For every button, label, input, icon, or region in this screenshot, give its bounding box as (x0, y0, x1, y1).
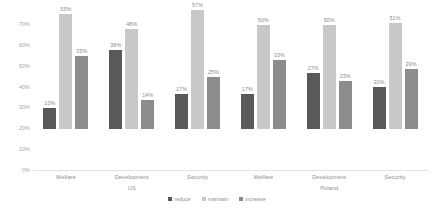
bar-value-label: 50% (258, 17, 269, 24)
bar-group: 17%50%33%Welfare (230, 0, 296, 170)
bar-item[interactable]: 20% (373, 0, 386, 129)
supercategory-label: Poland (231, 184, 429, 193)
bar-item[interactable]: 17% (241, 0, 254, 129)
bar-value-label: 35% (76, 48, 87, 55)
bar-reduce[interactable] (175, 94, 188, 129)
legend-item-reduce[interactable]: reduce (168, 196, 190, 202)
bar-increase[interactable] (141, 100, 154, 129)
bar-group: 20%51%29%Security (362, 0, 428, 170)
x-axis-baseline (33, 170, 428, 171)
bar-group: 10%55%35%Welfare (33, 0, 99, 170)
bar-reduce[interactable] (241, 94, 254, 129)
bar-value-label: 29% (406, 61, 417, 68)
y-axis-tick-label: 40% (19, 84, 30, 90)
bar-item[interactable]: 50% (257, 0, 270, 129)
bar-group-bars: 10%55%35% (33, 0, 99, 129)
category-axis-label: Security (165, 174, 231, 181)
legend-swatch-icon (239, 197, 243, 201)
bar-group-bars: 27%50%23% (296, 0, 362, 129)
y-axis-tick-label: 50% (19, 63, 30, 69)
legend-label: maintain (208, 196, 228, 202)
legend-label: reduce (174, 196, 190, 202)
bar-group: 17%57%25%Security (165, 0, 231, 170)
y-axis-tick-label: 10% (19, 146, 30, 152)
bar-group-bars: 17%57%25% (165, 0, 231, 129)
bar-item[interactable]: 17% (175, 0, 188, 129)
bar-item[interactable]: 27% (307, 0, 320, 129)
bar-reduce[interactable] (43, 108, 56, 129)
bar-group-bars: 38%48%14% (99, 0, 165, 129)
chart-legend: reducemaintainincrease (0, 196, 434, 202)
y-axis-tick-label: 20% (19, 125, 30, 131)
legend-item-maintain[interactable]: maintain (202, 196, 228, 202)
bar-maintain[interactable] (257, 25, 270, 129)
category-axis-label: Welfare (33, 174, 99, 181)
bar-increase[interactable] (75, 56, 88, 129)
bar-group-bars: 20%51%29% (362, 0, 428, 129)
bar-item[interactable]: 25% (207, 0, 220, 129)
bar-value-label: 38% (110, 42, 121, 49)
bar-value-label: 27% (308, 65, 319, 72)
y-axis-tick-label: 60% (19, 42, 30, 48)
bar-item[interactable]: 33% (273, 0, 286, 129)
bar-value-label: 17% (176, 86, 187, 93)
bar-item[interactable]: 23% (339, 0, 352, 129)
bar-reduce[interactable] (307, 73, 320, 129)
y-axis: 0%10%20%30%40%50%60%70% (0, 0, 33, 211)
bar-maintain[interactable] (191, 10, 204, 129)
bar-maintain[interactable] (323, 25, 336, 129)
bar-increase[interactable] (207, 77, 220, 129)
bar-value-label: 55% (60, 6, 71, 13)
bar-value-label: 23% (340, 73, 351, 80)
bar-reduce[interactable] (109, 50, 122, 129)
supercategory-label: US (33, 184, 231, 193)
bar-value-label: 51% (390, 15, 401, 22)
bar-value-label: 14% (142, 92, 153, 99)
legend-item-increase[interactable]: increase (239, 196, 265, 202)
bar-item[interactable]: 29% (405, 0, 418, 129)
bar-value-label: 48% (126, 21, 137, 28)
bar-value-label: 10% (44, 100, 55, 107)
bar-maintain[interactable] (59, 14, 72, 129)
bar-group: 27%50%23%Development (296, 0, 362, 170)
bar-value-label: 20% (374, 79, 385, 86)
bar-value-label: 50% (324, 17, 335, 24)
bar-reduce[interactable] (373, 87, 386, 129)
category-axis-label: Welfare (230, 174, 296, 181)
y-axis-tick-label: 30% (19, 104, 30, 110)
bar-maintain[interactable] (389, 23, 402, 129)
category-axis-label: Security (362, 174, 428, 181)
supercategory-axis: USPoland (33, 184, 428, 193)
legend-swatch-icon (168, 197, 172, 201)
bar-item[interactable]: 50% (323, 0, 336, 129)
bar-item[interactable]: 55% (59, 0, 72, 129)
bar-value-label: 57% (192, 2, 203, 9)
bar-item[interactable]: 10% (43, 0, 56, 129)
bar-item[interactable]: 35% (75, 0, 88, 129)
bar-group-bars: 17%50%33% (230, 0, 296, 129)
y-axis-tick-label: 0% (22, 167, 30, 173)
bar-value-label: 17% (242, 86, 253, 93)
bar-increase[interactable] (339, 81, 352, 129)
bar-value-label: 33% (274, 52, 285, 59)
bar-item[interactable]: 57% (191, 0, 204, 129)
plot-area: 10%55%35%Welfare38%48%14%Development17%5… (33, 0, 428, 170)
bar-group: 38%48%14%Development (99, 0, 165, 170)
category-axis-label: Development (99, 174, 165, 181)
y-axis-tick-label: 70% (19, 21, 30, 27)
legend-swatch-icon (202, 197, 206, 201)
bar-increase[interactable] (405, 69, 418, 129)
legend-label: increase (245, 196, 265, 202)
category-axis-label: Development (296, 174, 362, 181)
bar-item[interactable]: 48% (125, 0, 138, 129)
bar-item[interactable]: 14% (141, 0, 154, 129)
bar-value-label: 25% (208, 69, 219, 76)
bar-maintain[interactable] (125, 29, 138, 129)
bar-item[interactable]: 51% (389, 0, 402, 129)
grouped-bar-chart: 0%10%20%30%40%50%60%70% 10%55%35%Welfare… (0, 0, 434, 211)
bar-item[interactable]: 38% (109, 0, 122, 129)
bar-increase[interactable] (273, 60, 286, 129)
